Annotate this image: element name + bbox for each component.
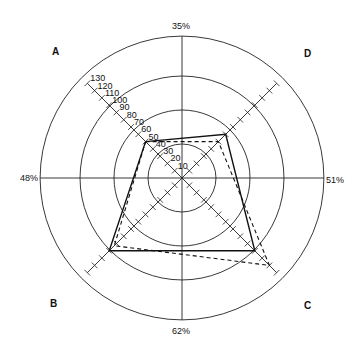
edge-label-top: 35% — [172, 21, 190, 31]
quadrant-label-d: D — [304, 48, 311, 59]
series-dashed — [114, 142, 269, 266]
axis-line-d — [182, 83, 277, 178]
edge-label-bottom: 62% — [172, 326, 190, 336]
edge-label-right: 51% — [326, 175, 344, 185]
edge-label-left: 48% — [20, 173, 38, 183]
axis-line-a — [87, 83, 182, 178]
quadrant-label-b: B — [50, 298, 57, 309]
tick-label: 130 — [90, 73, 105, 83]
axis-line-b — [87, 178, 182, 273]
quadrant-label-a: A — [52, 46, 59, 57]
axis-line-c — [182, 178, 277, 273]
quadrant-label-c: C — [304, 300, 311, 311]
